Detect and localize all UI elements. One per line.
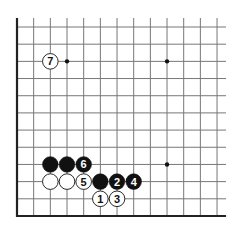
- stone-disc: [59, 174, 75, 190]
- star-point: [165, 162, 169, 166]
- star-point: [65, 59, 69, 63]
- white-stone-1: 1: [93, 191, 109, 207]
- move-number: 4: [131, 176, 138, 188]
- move-number: 7: [47, 55, 53, 67]
- stone-disc: [43, 157, 59, 173]
- go-board: 6524137: [0, 0, 243, 228]
- black-stone-6: 6: [76, 157, 92, 173]
- white-stone: [43, 174, 59, 190]
- black-stone: [43, 157, 59, 173]
- white-stone-3: 3: [109, 191, 125, 207]
- black-stone-2: 2: [109, 174, 125, 190]
- move-number: 6: [81, 158, 87, 170]
- stone-disc: [93, 174, 109, 190]
- black-stone: [93, 174, 109, 190]
- move-number: 2: [114, 176, 120, 188]
- move-number: 3: [114, 193, 120, 205]
- star-point: [165, 59, 169, 63]
- white-stone-5: 5: [76, 174, 92, 190]
- move-number: 1: [97, 193, 103, 205]
- white-stone-7: 7: [43, 54, 59, 70]
- stone-disc: [43, 174, 59, 190]
- move-number: 5: [81, 176, 87, 188]
- black-stone-4: 4: [126, 174, 142, 190]
- white-stone: [59, 174, 75, 190]
- stone-disc: [59, 157, 75, 173]
- black-stone: [59, 157, 75, 173]
